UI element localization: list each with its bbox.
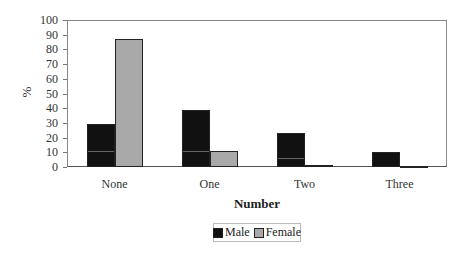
y-tick-label: 30 <box>28 117 58 129</box>
x-axis-label: Number <box>67 196 447 212</box>
legend-swatch-male <box>213 228 223 238</box>
legend-label-female: Female <box>266 225 301 240</box>
legend-label-male: Male <box>225 225 250 240</box>
x-tick-label: One <box>162 177 257 192</box>
bar-chart: % 0102030405060708090100 NoneOneTwoThree… <box>0 0 469 258</box>
bar-female-one <box>210 151 238 167</box>
x-tick-label: Three <box>352 177 447 192</box>
bar-male-one <box>182 110 210 167</box>
y-tick-label: 50 <box>28 88 58 100</box>
y-tick-label: 0 <box>28 161 58 173</box>
bar-male-three <box>372 152 400 167</box>
legend-swatch-female <box>254 228 264 238</box>
y-tick-label: 70 <box>28 58 58 70</box>
bar-male-two <box>277 133 305 167</box>
x-tick-label: Two <box>257 177 352 192</box>
legend: Male Female <box>213 223 301 242</box>
y-tick-label: 90 <box>28 29 58 41</box>
y-tick-label: 20 <box>28 132 58 144</box>
bar-female-three <box>400 166 428 168</box>
bar-highlight <box>183 151 209 152</box>
y-tick-label: 60 <box>28 73 58 85</box>
bar-male-none <box>87 124 115 167</box>
bar-female-two <box>305 165 333 167</box>
y-tick-mark <box>63 167 67 168</box>
x-tick-label: None <box>67 177 162 192</box>
bar-highlight <box>278 158 304 159</box>
bar-female-none <box>115 39 143 167</box>
y-tick-label: 100 <box>28 14 58 26</box>
legend-item-male: Male <box>213 225 250 240</box>
legend-item-female: Female <box>254 225 301 240</box>
y-tick-label: 80 <box>28 43 58 55</box>
y-tick-label: 10 <box>28 146 58 158</box>
bar-highlight <box>88 151 114 152</box>
y-tick-label: 40 <box>28 102 58 114</box>
